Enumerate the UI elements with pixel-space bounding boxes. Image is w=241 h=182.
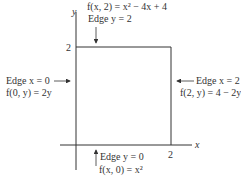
left-edge-label: Edge x = 0 <box>6 75 50 86</box>
left-edge-function: f(0, y) = 2y <box>6 87 52 99</box>
bottom-edge-function: f(x, 0) = x² <box>99 164 143 176</box>
bottom-edge-label: Edge y = 0 <box>100 151 144 162</box>
x-axis-label: x <box>194 139 200 150</box>
right-edge-function: f(2, y) = 4 − 2y <box>180 87 241 99</box>
top-edge-label: Edge y = 2 <box>88 13 132 24</box>
y-tick-label: 2 <box>66 42 71 53</box>
top-edge-function: f(x, 2) = x² − 4x + 4 <box>87 1 167 13</box>
y-axis-label: y <box>71 6 77 17</box>
diagram-canvas: y x 2 2 f(x, 2) = x² − 4x + 4 Edge y = 2… <box>0 0 241 182</box>
x-tick-label: 2 <box>168 149 173 160</box>
right-edge-label: Edge x = 2 <box>196 75 240 86</box>
square-region <box>76 47 171 145</box>
